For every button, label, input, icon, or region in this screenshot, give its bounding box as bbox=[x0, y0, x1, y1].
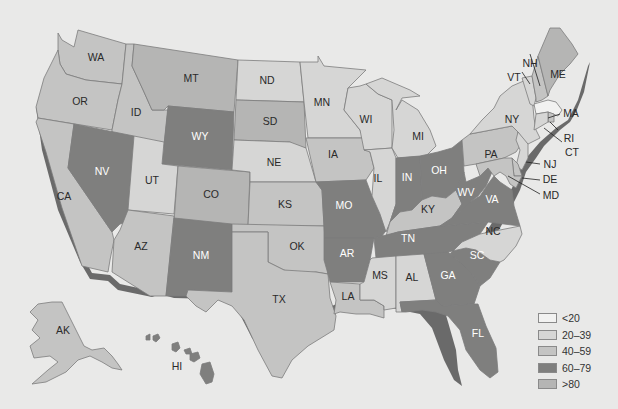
legend-label: <20 bbox=[562, 312, 580, 324]
label-MN: MN bbox=[314, 96, 330, 108]
label-WV: WV bbox=[458, 186, 475, 198]
legend-item: 20–39 bbox=[538, 327, 591, 344]
label-CO: CO bbox=[203, 188, 219, 200]
legend-label: >80 bbox=[562, 378, 580, 390]
label-OK: OK bbox=[289, 240, 304, 252]
label-NY: NY bbox=[505, 113, 520, 125]
legend-swatch bbox=[538, 313, 557, 323]
legend-item: 40–59 bbox=[538, 343, 591, 360]
state-AK bbox=[30, 302, 122, 384]
label-MO: MO bbox=[336, 199, 353, 211]
label-SD: SD bbox=[263, 115, 278, 127]
label-MT: MT bbox=[183, 72, 199, 84]
label-WY: WY bbox=[192, 130, 209, 142]
label-IN: IN bbox=[402, 171, 413, 183]
label-NJ: NJ bbox=[544, 158, 557, 170]
label-FL: FL bbox=[472, 327, 484, 339]
legend-swatch bbox=[538, 346, 557, 356]
legend: <20 20–39 40–59 60–79 >80 bbox=[538, 310, 591, 393]
legend-item: 60–79 bbox=[538, 360, 591, 377]
label-ME: ME bbox=[550, 68, 566, 80]
legend-label: 60–79 bbox=[562, 362, 591, 374]
label-DE: DE bbox=[543, 173, 558, 185]
label-TX: TX bbox=[272, 293, 285, 305]
label-LA: LA bbox=[342, 290, 355, 302]
legend-item: >80 bbox=[538, 376, 591, 393]
label-CT: CT bbox=[565, 146, 580, 158]
label-RI: RI bbox=[564, 132, 575, 144]
label-AL: AL bbox=[406, 271, 419, 283]
label-VT: VT bbox=[507, 71, 521, 83]
label-OH: OH bbox=[431, 164, 447, 176]
label-PA: PA bbox=[484, 148, 497, 160]
label-NC: NC bbox=[485, 225, 501, 237]
label-NV: NV bbox=[95, 165, 110, 177]
label-WI: WI bbox=[360, 113, 373, 125]
label-IA: IA bbox=[328, 148, 338, 160]
label-NM: NM bbox=[193, 249, 209, 261]
label-IL: IL bbox=[374, 172, 383, 184]
label-KS: KS bbox=[278, 198, 292, 210]
label-CA: CA bbox=[57, 190, 72, 202]
label-AR: AR bbox=[340, 247, 355, 259]
label-VA: VA bbox=[485, 193, 498, 205]
label-HI: HI bbox=[172, 360, 183, 372]
label-WA: WA bbox=[88, 51, 105, 63]
us-choropleth-map: WA OR CA ID NV MT WY UT CO AZ NM ND SD N… bbox=[0, 0, 618, 409]
label-MI: MI bbox=[412, 130, 424, 142]
label-OR: OR bbox=[72, 95, 88, 107]
label-SC: SC bbox=[470, 249, 485, 261]
label-TN: TN bbox=[401, 232, 415, 244]
label-NH: NH bbox=[522, 57, 537, 69]
legend-label: 20–39 bbox=[562, 329, 591, 341]
label-MD: MD bbox=[543, 189, 560, 201]
label-AZ: AZ bbox=[134, 240, 148, 252]
label-ND: ND bbox=[259, 74, 275, 86]
label-MA: MA bbox=[563, 107, 579, 119]
label-UT: UT bbox=[145, 174, 160, 186]
label-KY: KY bbox=[421, 203, 435, 215]
label-ID: ID bbox=[131, 106, 142, 118]
states bbox=[30, 28, 578, 384]
state-CT bbox=[534, 112, 548, 130]
legend-label: 40–59 bbox=[562, 345, 591, 357]
label-AK: AK bbox=[56, 324, 70, 336]
label-MS: MS bbox=[372, 269, 388, 281]
label-GA: GA bbox=[440, 269, 455, 281]
legend-swatch bbox=[538, 330, 557, 340]
legend-swatch bbox=[538, 363, 557, 373]
legend-swatch bbox=[538, 379, 557, 389]
label-NE: NE bbox=[267, 156, 282, 168]
legend-item: <20 bbox=[538, 310, 591, 327]
